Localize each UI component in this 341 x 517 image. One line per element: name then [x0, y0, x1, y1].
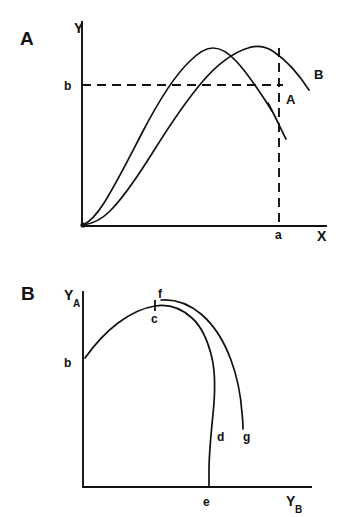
panel-a-curve-a [83, 48, 272, 225]
panel-b: B Y A Y B b c d e f g [21, 283, 311, 515]
panel-b-curve-bcde [85, 306, 215, 488]
panel-b-curve-fg [161, 300, 243, 429]
panel-b-x-axis-sublabel: B [295, 504, 302, 515]
scientific-figure: A Y X A B b a B Y A [0, 0, 341, 517]
panel-a-value-label-b: b [64, 79, 71, 93]
panel-b-point-label-g: g [243, 430, 250, 444]
panel-b-axes [83, 292, 311, 487]
panel-b-point-label-c: c [151, 312, 158, 326]
panel-a-axes [82, 22, 326, 226]
panel-b-label: B [21, 283, 35, 304]
panel-a-y-axis-label: Y [74, 20, 84, 36]
panel-b-point-label-d: d [217, 430, 224, 444]
panel-a-value-label-a: a [275, 228, 282, 242]
panel-a-curve-a-tail [268, 103, 286, 139]
panel-a: A Y X A B b a [20, 20, 327, 244]
panel-a-curve-label-a: A [286, 92, 296, 107]
panel-b-point-label-f: f [158, 287, 163, 301]
panel-b-point-label-b: b [64, 356, 71, 370]
panel-a-curve-b [83, 46, 309, 225]
panel-b-point-label-e: e [203, 495, 210, 509]
panel-b-y-axis-sublabel: A [73, 298, 80, 309]
panel-a-label: A [20, 28, 34, 49]
figure-root: A Y X A B b a B Y A [0, 0, 341, 517]
panel-a-curve-label-b: B [314, 67, 323, 82]
panel-a-x-axis-label: X [317, 228, 327, 244]
